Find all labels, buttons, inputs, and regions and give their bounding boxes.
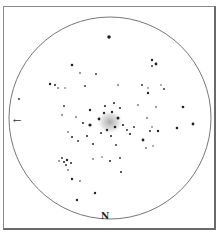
star [61, 114, 63, 116]
star [66, 159, 68, 161]
star [119, 107, 121, 109]
star [49, 83, 51, 85]
star [103, 112, 105, 114]
star [88, 123, 91, 126]
star [107, 35, 111, 39]
star [58, 160, 60, 162]
star [86, 135, 88, 137]
star [146, 117, 148, 119]
star [122, 124, 124, 126]
star [61, 157, 63, 159]
star [18, 98, 20, 100]
star [101, 156, 102, 157]
star [163, 88, 165, 90]
star [151, 126, 152, 127]
star [129, 133, 131, 135]
star [145, 147, 147, 149]
star [111, 111, 113, 113]
star [160, 84, 161, 85]
star [151, 59, 153, 61]
star [57, 87, 59, 89]
north-label: N [101, 211, 109, 221]
star [126, 129, 128, 131]
star [71, 136, 73, 138]
star [113, 102, 115, 104]
star [141, 84, 143, 86]
star [95, 73, 97, 75]
star [192, 123, 195, 126]
star [63, 161, 65, 163]
star [92, 143, 94, 145]
star [94, 192, 96, 194]
star [79, 180, 81, 182]
star [117, 84, 119, 86]
star [147, 87, 148, 88]
star [119, 157, 121, 159]
star [71, 64, 74, 67]
star [142, 139, 145, 142]
star [114, 126, 117, 129]
star [110, 135, 112, 137]
star-cluster-core [96, 109, 124, 135]
star [82, 122, 84, 124]
star [100, 132, 102, 134]
star [67, 169, 69, 171]
star [76, 199, 78, 201]
star [106, 129, 108, 131]
star-chart [0, 0, 222, 239]
star [151, 65, 153, 67]
star [155, 63, 158, 66]
star [120, 171, 122, 173]
star [92, 158, 94, 160]
star [152, 145, 153, 146]
star [182, 106, 185, 109]
star [98, 118, 101, 121]
star [64, 87, 65, 88]
star [71, 178, 73, 180]
star [75, 116, 77, 118]
star [109, 160, 111, 162]
star [63, 105, 65, 107]
star [147, 92, 149, 94]
star [115, 144, 117, 146]
left-arrow-icon: ← [13, 116, 21, 126]
star [84, 85, 86, 87]
star [157, 130, 159, 132]
star [67, 131, 69, 133]
star [155, 106, 157, 108]
star [149, 130, 151, 132]
star [89, 109, 91, 111]
star [70, 162, 72, 164]
star [77, 140, 79, 142]
star [79, 72, 81, 74]
star [54, 84, 56, 86]
star [117, 117, 120, 120]
star [176, 127, 179, 130]
star [65, 164, 67, 166]
star [133, 126, 135, 128]
star [137, 104, 139, 106]
star [104, 105, 106, 107]
